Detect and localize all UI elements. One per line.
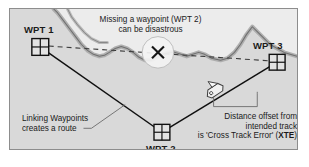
waypoint-marker-wpt3[interactable] [269, 54, 285, 70]
xte-note-line1: Distance offset from [153, 112, 297, 122]
hazard-note-line2: can be disastrous [88, 25, 213, 35]
diagram-frame: Missing a waypoint (WPT 2) can be disast… [9, 8, 298, 150]
hazard-note-line1: Missing a waypoint (WPT 2) [88, 15, 213, 25]
hazard-note: Missing a waypoint (WPT 2) can be disast… [88, 15, 213, 34]
xte-note-line2: intended track [153, 122, 297, 132]
xte-note-line3-prefix: is 'Cross Track Error' ( [198, 131, 278, 140]
xte-note-line3: is 'Cross Track Error' (XTE) [153, 131, 297, 141]
xte-note: Distance offset from intended track is '… [153, 112, 297, 141]
route-note-line2: creates a route [22, 124, 88, 134]
label-wpt1: WPT 1 [24, 24, 54, 35]
route-note: Linking Waypoints creates a route [22, 114, 88, 133]
xte-acronym: XTE [278, 131, 294, 140]
label-wpt2: WPT 2 [146, 143, 176, 150]
waypoint-marker-wpt1[interactable] [32, 39, 49, 56]
route-note-line1: Linking Waypoints [22, 114, 88, 124]
label-wpt3: WPT 3 [253, 40, 283, 51]
xte-note-line3-suffix: ) [294, 131, 297, 140]
diagram-canvas: Missing a waypoint (WPT 2) can be disast… [0, 0, 309, 167]
